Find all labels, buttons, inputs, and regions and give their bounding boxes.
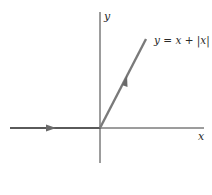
y-axis-label: y [104, 11, 110, 22]
arrow-up-right-icon [122, 75, 128, 87]
x-axis-label: x [198, 131, 204, 142]
plot-canvas [0, 0, 212, 195]
graph-figure: y x y = x + |x| [0, 0, 212, 195]
arrow-right-icon [46, 125, 56, 132]
curve-equation-label: y = x + |x| [154, 35, 210, 46]
